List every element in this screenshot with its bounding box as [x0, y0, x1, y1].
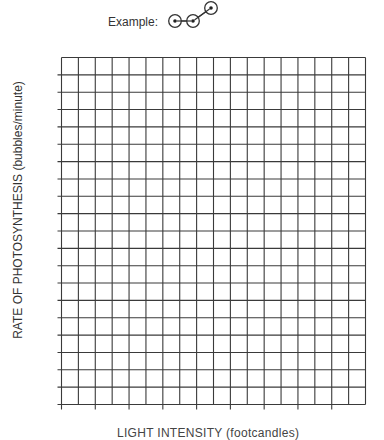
y-axis-label: RATE OF PHOTOSYNTHESIS (bubbles/minute) — [11, 81, 25, 339]
x-axis-label: LIGHT INTENSITY (footcandles) — [117, 426, 299, 440]
